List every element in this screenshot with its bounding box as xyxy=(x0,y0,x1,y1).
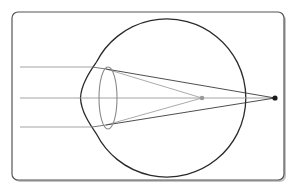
outer-focal-point xyxy=(272,95,277,100)
diagram-frame xyxy=(12,12,284,180)
diagram-canvas xyxy=(0,0,296,192)
inner-focal-point xyxy=(200,96,205,101)
eye-optics-diagram xyxy=(0,0,296,192)
